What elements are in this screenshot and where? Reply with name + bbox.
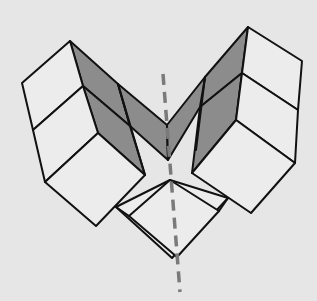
- cube-symmetry-diagram: [0, 0, 317, 301]
- diagram-canvas: [0, 0, 317, 301]
